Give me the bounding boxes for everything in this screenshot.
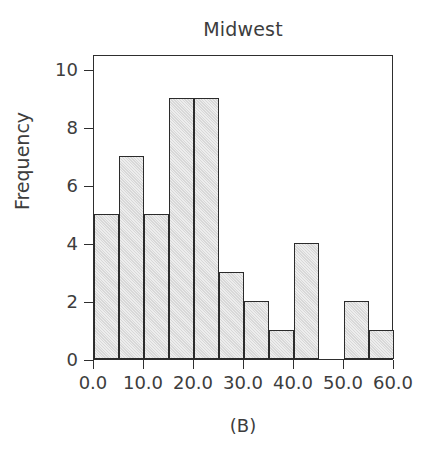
x-axis-tick xyxy=(193,360,194,369)
y-axis-tick-label: 6 xyxy=(38,177,78,195)
y-axis-tick xyxy=(84,186,93,187)
y-axis-tick xyxy=(84,244,93,245)
histogram-bar xyxy=(369,330,394,359)
histogram-figure: Midwest Frequency 02468100.010.020.030.0… xyxy=(0,0,428,459)
bars-layer xyxy=(94,56,392,359)
x-axis-tick xyxy=(393,360,394,369)
histogram-bar xyxy=(294,243,319,359)
y-axis-tick xyxy=(84,302,93,303)
histogram-bar xyxy=(94,214,119,359)
histogram-bar xyxy=(244,301,269,359)
histogram-bar xyxy=(219,272,244,359)
y-axis-tick-label: 0 xyxy=(38,351,78,369)
y-axis-tick-label: 8 xyxy=(38,119,78,137)
x-axis-tick xyxy=(293,360,294,369)
y-axis-tick-label: 4 xyxy=(38,235,78,253)
y-axis-tick xyxy=(84,128,93,129)
figure-caption: (B) xyxy=(93,415,393,436)
histogram-bar xyxy=(344,301,369,359)
histogram-bar xyxy=(169,98,194,359)
histogram-bar xyxy=(269,330,294,359)
chart-title: Midwest xyxy=(93,18,393,40)
histogram-bar xyxy=(144,214,169,359)
x-axis-tick-label: 60.0 xyxy=(363,374,423,392)
y-axis-tick xyxy=(84,70,93,71)
y-axis-tick xyxy=(84,360,93,361)
x-axis-tick xyxy=(143,360,144,369)
x-axis-tick xyxy=(93,360,94,369)
histogram-bar xyxy=(194,98,219,359)
y-axis-tick-label: 2 xyxy=(38,293,78,311)
histogram-bar xyxy=(119,156,144,359)
y-axis-title: Frequency xyxy=(11,96,33,226)
plot-area xyxy=(93,55,393,360)
y-axis-tick-label: 10 xyxy=(38,61,78,79)
x-axis-tick xyxy=(343,360,344,369)
x-axis-tick xyxy=(243,360,244,369)
